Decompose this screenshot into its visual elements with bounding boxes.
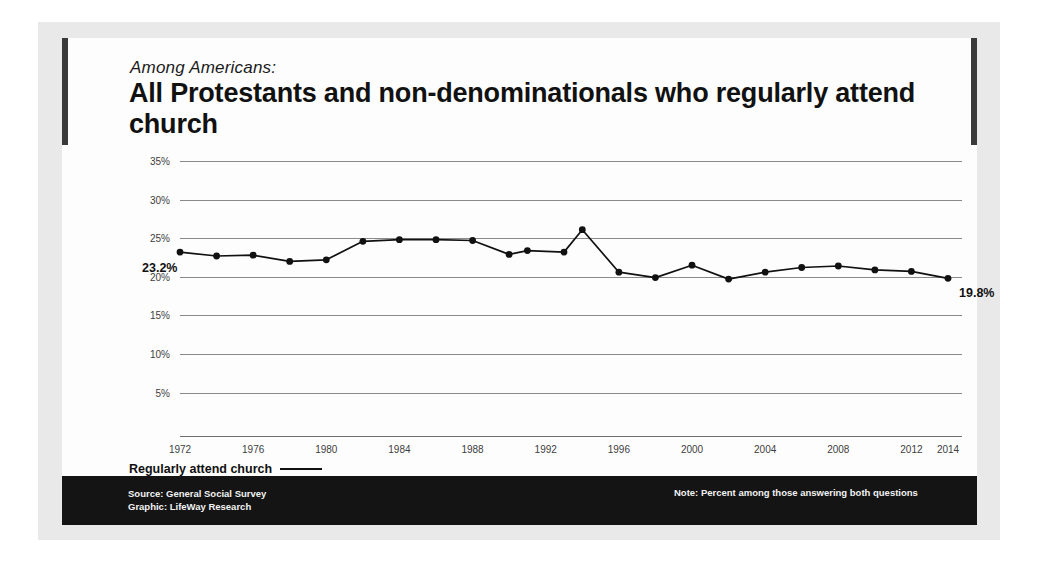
legend-label: Regularly attend church bbox=[129, 462, 272, 476]
data-point bbox=[213, 253, 220, 260]
data-point bbox=[872, 267, 879, 274]
data-point bbox=[725, 276, 732, 283]
data-point bbox=[798, 264, 805, 271]
data-point bbox=[835, 263, 842, 270]
data-point bbox=[762, 269, 769, 276]
footer-source: Source: General Social Survey bbox=[128, 487, 266, 500]
chart-legend: Regularly attend church bbox=[129, 462, 322, 476]
footer-note: Note: Percent among those answering both… bbox=[674, 487, 918, 498]
data-point bbox=[689, 262, 696, 269]
screenshot-page: Among Americans: All Protestants and non… bbox=[0, 0, 1060, 583]
data-point bbox=[250, 252, 257, 259]
series-line-and-points bbox=[62, 38, 977, 525]
data-point bbox=[524, 247, 531, 254]
footer-source-block: Source: General Social Survey Graphic: L… bbox=[128, 487, 266, 513]
data-point bbox=[561, 249, 568, 256]
data-point bbox=[286, 258, 293, 265]
data-point bbox=[396, 236, 403, 243]
data-point bbox=[433, 236, 440, 243]
chart-footer: Source: General Social Survey Graphic: L… bbox=[62, 476, 977, 525]
data-point bbox=[945, 275, 952, 282]
data-point bbox=[323, 256, 330, 263]
data-point bbox=[360, 238, 367, 245]
data-value-callout: 23.2% bbox=[142, 261, 177, 275]
data-point bbox=[908, 268, 915, 275]
chart-plot-area: 5%10%15%20%25%30%35% 1972197619801984198… bbox=[62, 38, 977, 525]
data-point bbox=[616, 269, 623, 276]
data-point bbox=[177, 249, 184, 256]
chart-card: Among Americans: All Protestants and non… bbox=[62, 38, 977, 525]
data-point bbox=[469, 237, 476, 244]
data-value-callout: 19.8% bbox=[959, 286, 994, 300]
footer-graphic: Graphic: LifeWay Research bbox=[128, 500, 266, 513]
data-point bbox=[652, 274, 659, 281]
data-point bbox=[506, 251, 513, 258]
data-point bbox=[579, 226, 586, 233]
legend-line-swatch bbox=[280, 468, 322, 470]
